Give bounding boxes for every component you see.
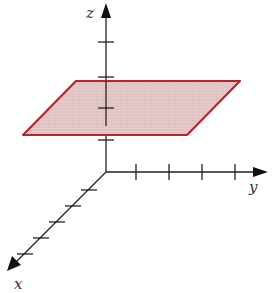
x-axis — [7, 172, 106, 271]
y-axis — [106, 164, 268, 180]
z-axis-label: z — [85, 4, 94, 22]
y-arrow-icon — [253, 167, 268, 177]
coordinate-diagram: z y x — [0, 0, 273, 293]
x-axis-label: x — [14, 275, 23, 293]
horizontal-plane — [23, 81, 240, 135]
z-arrow-icon — [101, 3, 111, 18]
y-axis-label: y — [248, 178, 258, 196]
